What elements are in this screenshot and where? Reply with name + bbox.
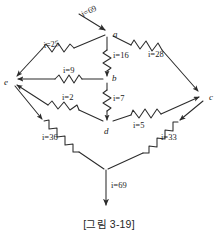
current-label-source-out: i=69 <box>111 180 127 190</box>
node-label-c: c <box>209 92 213 102</box>
circuit-diagram: a b c d e i=69 i=25 i=16 i=28 i=9 i=7 i=… <box>0 0 218 243</box>
node-label-d: d <box>104 126 109 136</box>
current-label-e-out: i=36 <box>42 132 58 142</box>
current-label-c-out: i=33 <box>161 132 177 142</box>
branch-d-e <box>17 85 103 121</box>
node-label-b: b <box>112 73 117 83</box>
node-label-e: e <box>4 77 8 87</box>
branch-b-d <box>103 83 111 120</box>
branch-a-b <box>103 37 111 76</box>
branch-a-e <box>17 35 105 76</box>
branch-d-c <box>113 97 199 121</box>
current-label-d-e: i=2 <box>62 92 73 102</box>
current-label-a-e: i=25 <box>43 38 60 50</box>
current-label-a-c: i=28 <box>148 49 164 59</box>
current-label-b-e: i=9 <box>63 65 74 75</box>
branch-a-c <box>113 36 198 91</box>
branch-e-out <box>15 86 104 169</box>
figure-caption: [그림 3-19] <box>0 216 218 231</box>
current-label-source-in: i=69 <box>79 3 97 19</box>
current-label-b-d: i=7 <box>113 93 124 103</box>
current-label-a-b: i=16 <box>113 50 129 60</box>
branch-b-e <box>18 75 103 83</box>
node-label-a: a <box>113 29 118 39</box>
figure-container: a b c d e i=69 i=25 i=16 i=28 i=9 i=7 i=… <box>0 0 218 243</box>
current-label-d-c: i=5 <box>133 120 144 130</box>
